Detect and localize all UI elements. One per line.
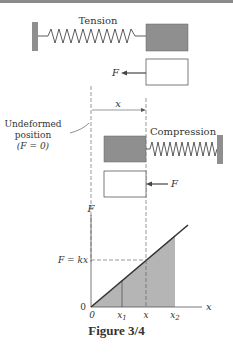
compression-fbd-block: [104, 171, 146, 197]
compression-wall: [217, 135, 223, 164]
arrow-left-icon: [146, 182, 152, 187]
arrow-right-icon: [141, 108, 146, 112]
displacement-label: x: [115, 98, 121, 109]
x-tick-x: x: [143, 310, 148, 320]
fkx-label: F = kx: [57, 255, 88, 265]
zero-force-label: (F = 0): [17, 141, 50, 151]
compression-label: Compression: [150, 126, 217, 137]
compression-force-label: F: [170, 178, 179, 189]
leader-line: [70, 123, 89, 133]
y-axis-label: F: [87, 203, 96, 214]
tension-wall: [32, 22, 38, 51]
compression-spring: [146, 142, 217, 156]
position-label: position: [15, 130, 52, 140]
arrow-left-icon: [121, 71, 127, 76]
tension-block: [146, 24, 188, 51]
figure-caption: Figure 3/4: [0, 323, 233, 339]
tension-force-label: F: [111, 67, 120, 78]
x-tick-x1: x1: [117, 310, 127, 322]
tension-fbd-block: [146, 59, 188, 85]
spring-diagram: Tension F x Undeformed position (F = 0) …: [0, 0, 233, 355]
x-tick-0: 0: [89, 310, 95, 320]
compression-block: [104, 136, 146, 162]
x-axis-label: x: [206, 301, 212, 312]
tension-spring: [38, 29, 146, 43]
y-origin-label: 0: [80, 302, 86, 312]
tension-label: Tension: [78, 15, 118, 26]
x-tick-x2: x2: [170, 310, 180, 322]
undeformed-label: Undeformed: [4, 119, 61, 129]
